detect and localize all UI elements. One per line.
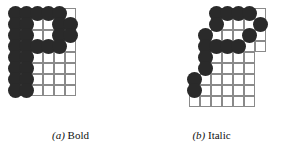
panel-bold: (a) Bold [0, 0, 141, 155]
pixel-cell [54, 63, 65, 74]
pixel-cell [10, 63, 21, 74]
caption-italic-marker: (b) [192, 129, 205, 141]
pixel-cell [10, 19, 21, 30]
pixel-cell [222, 30, 233, 41]
figure-root: (a) Bold (b) Italic [0, 0, 282, 155]
pixel-cell [211, 52, 222, 63]
pixel-cell [43, 30, 54, 41]
pixel-cell [211, 74, 222, 85]
pixel-cell [21, 85, 32, 96]
pixel-cell [211, 30, 222, 41]
pixel-cell [222, 19, 233, 30]
pixel-cell [222, 8, 233, 19]
pixel-cell [65, 63, 76, 74]
pixel-cell [65, 8, 76, 19]
pixel-cell [222, 63, 233, 74]
pixel-cell [65, 41, 76, 52]
pixel-cell [233, 8, 244, 19]
pixel-cell [43, 8, 54, 19]
pixel-cell [21, 41, 32, 52]
pixel-cell [32, 74, 43, 85]
pixel-cell [244, 63, 255, 74]
pixel-cell [10, 85, 21, 96]
bold-pixel-grid [10, 8, 76, 96]
pixel-cell [200, 52, 211, 63]
pixel-cell [54, 19, 65, 30]
pixel-cell [255, 19, 266, 30]
pixel-cell [211, 85, 222, 96]
pixel-cell [244, 19, 255, 30]
pixel-cell [43, 63, 54, 74]
pixel-cell [244, 74, 255, 85]
pixel-cell [233, 52, 244, 63]
pixel-cell [189, 96, 200, 107]
italic-pixel-grid [178, 8, 266, 107]
pixel-cell [200, 74, 211, 85]
pixel-cell [200, 96, 211, 107]
pixel-cell [189, 74, 200, 85]
pixel-cell [43, 41, 54, 52]
pixel-cell [211, 63, 222, 74]
pixel-cell [65, 52, 76, 63]
pixel-cell [255, 41, 266, 52]
caption-bold-marker: (a) [52, 129, 65, 141]
pixel-cell [32, 85, 43, 96]
pixel-cell [233, 63, 244, 74]
pixel-cell [233, 74, 244, 85]
pixel-cell [200, 41, 211, 52]
pixel-cell [233, 96, 244, 107]
pixel-cell [233, 41, 244, 52]
pixel-cell [54, 30, 65, 41]
pixel-cell [32, 30, 43, 41]
caption-italic-text: Italic [208, 129, 231, 141]
pixel-cell [54, 8, 65, 19]
pixel-cell [222, 41, 233, 52]
pixel-cell [32, 8, 43, 19]
pixel-cell [244, 85, 255, 96]
pixel-cell [200, 85, 211, 96]
pixel-cell [43, 85, 54, 96]
pixel-cell [255, 30, 266, 41]
pixel-cell [222, 74, 233, 85]
pixel-cell [21, 8, 32, 19]
pixel-cell [54, 52, 65, 63]
pixel-cell [211, 96, 222, 107]
pixel-cell [65, 19, 76, 30]
pixel-cell [10, 74, 21, 85]
pixel-cell [211, 19, 222, 30]
italic-grid-cells [178, 8, 266, 107]
pixel-cell [189, 85, 200, 96]
caption-bold-text: Bold [68, 129, 89, 141]
pixel-cell [54, 41, 65, 52]
pixel-cell [244, 52, 255, 63]
pixel-cell [244, 41, 255, 52]
pixel-cell [32, 19, 43, 30]
pixel-cell [222, 96, 233, 107]
pixel-cell [10, 52, 21, 63]
pixel-cell [65, 74, 76, 85]
pixel-cell [233, 30, 244, 41]
pixel-cell [244, 30, 255, 41]
bold-grid-cells [10, 8, 76, 96]
pixel-cell [200, 63, 211, 74]
pixel-cell [200, 30, 211, 41]
pixel-cell [10, 41, 21, 52]
pixel-cell [43, 19, 54, 30]
panel-italic: (b) Italic [141, 0, 282, 155]
pixel-cell [233, 19, 244, 30]
pixel-cell [10, 30, 21, 41]
pixel-cell [10, 8, 21, 19]
pixel-cell [233, 85, 244, 96]
pixel-cell [211, 41, 222, 52]
pixel-cell [21, 52, 32, 63]
pixel-cell [222, 52, 233, 63]
caption-italic: (b) Italic [141, 128, 282, 142]
pixel-cell [43, 74, 54, 85]
pixel-cell [21, 30, 32, 41]
pixel-cell [32, 41, 43, 52]
pixel-cell [65, 30, 76, 41]
pixel-cell [54, 85, 65, 96]
pixel-cell [211, 8, 222, 19]
pixel-cell [21, 19, 32, 30]
pixel-cell [222, 85, 233, 96]
